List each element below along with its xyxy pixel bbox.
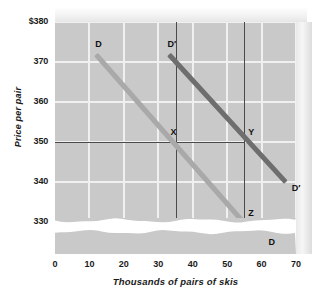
reference-line-horizontal <box>55 142 244 143</box>
plot-area <box>55 22 296 254</box>
x-axis-tick-label: 10 <box>77 259 101 269</box>
axis-break-band <box>55 218 296 254</box>
y-axis-tick-label: 360 <box>4 96 48 106</box>
x-axis-tick-label: 40 <box>181 259 205 269</box>
point-label-y: Y <box>248 127 254 137</box>
x-axis-tick-label: 70 <box>284 259 308 269</box>
curve-label-d-prime-start: D′ <box>168 39 177 49</box>
curve-label-d-prime-end: D′ <box>292 183 301 193</box>
y-axis-tick-label: 350 <box>4 136 48 146</box>
demand-curve-d <box>94 52 263 243</box>
curve-label-d-start: D <box>95 39 102 49</box>
chart-3d-right-edge <box>296 22 312 254</box>
y-axis-title: Price per pair <box>13 72 23 162</box>
x-axis-tick-label: 60 <box>250 259 274 269</box>
chart-3d-top-edge <box>55 8 307 22</box>
curve-label-d-end: D <box>269 237 276 247</box>
x-axis-title: Thousands of pairs of skis <box>55 276 296 287</box>
x-axis-tick-label: 50 <box>215 259 239 269</box>
point-label-z: Z <box>248 208 254 218</box>
y-axis-tick-label: 370 <box>4 56 48 66</box>
y-axis-tick-label: 340 <box>4 176 48 186</box>
y-axis-tick-label: 330 <box>4 216 48 226</box>
x-axis-tick-label: 0 <box>43 259 67 269</box>
x-axis-tick-label: 30 <box>146 259 170 269</box>
axis-break-wave-icon <box>55 218 296 254</box>
point-label-x: X <box>171 127 177 137</box>
x-axis-tick-label: 20 <box>112 259 136 269</box>
y-axis-tick-label: $380 <box>4 16 48 26</box>
chart-figure: $380370360350340330 010203040506070 XYZ … <box>0 0 324 294</box>
